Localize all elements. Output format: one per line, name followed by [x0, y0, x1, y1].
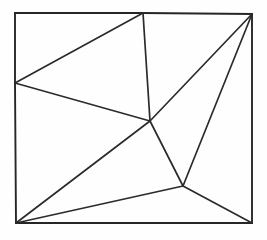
line-drawing-figure — [0, 0, 267, 240]
frame-left-lower-segment — [15, 83, 16, 223]
frame-top-right-segment — [143, 13, 252, 14]
